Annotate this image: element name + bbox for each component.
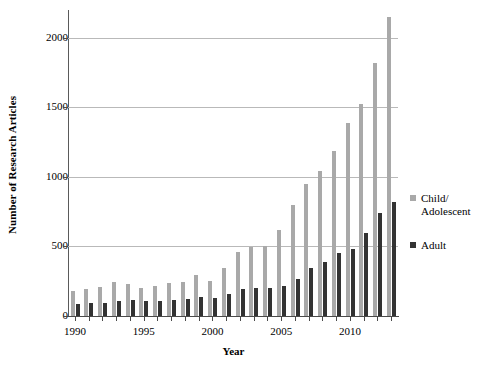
bar-adult — [131, 300, 135, 316]
x-tick-mark — [75, 317, 76, 321]
x-tick-mark — [350, 317, 351, 321]
legend: Child/AdolescentAdult — [410, 192, 485, 274]
bar-group — [180, 10, 194, 316]
bar-group — [125, 10, 139, 316]
bar-group — [262, 10, 276, 316]
bar-adult — [282, 286, 286, 316]
bar-group — [331, 10, 345, 316]
bar-child-adolescent — [126, 284, 130, 316]
bar-child-adolescent — [167, 283, 171, 316]
bar-group — [221, 10, 235, 316]
bar-adult — [117, 301, 121, 316]
x-tick-mark — [157, 317, 158, 321]
bar-child-adolescent — [359, 104, 363, 316]
x-tick-mark — [89, 317, 90, 321]
y-axis-ticks: 0500100015002000 — [0, 0, 68, 330]
y-tick-label: 2000 — [22, 32, 68, 43]
x-tick-label: 2010 — [330, 325, 370, 337]
legend-label-continued: Adolescent — [421, 205, 485, 218]
bar-adult — [337, 253, 341, 316]
legend-swatch — [410, 242, 416, 248]
legend-entry: Child/Adolescent — [410, 192, 485, 217]
bar-child-adolescent — [291, 205, 295, 316]
bar-adult — [268, 288, 272, 317]
y-tick-label: 1500 — [22, 101, 68, 112]
x-tick-label: 1990 — [55, 325, 95, 337]
x-axis-title: Year — [68, 345, 399, 357]
x-tick-mark — [116, 317, 117, 321]
x-tick-label: 2000 — [192, 325, 232, 337]
bar-adult — [392, 202, 396, 316]
bar-group — [317, 10, 331, 316]
bar-child-adolescent — [139, 288, 143, 317]
bar-adult — [172, 300, 176, 316]
x-tick-mark — [281, 317, 282, 321]
bar-child-adolescent — [222, 268, 226, 316]
bar-child-adolescent — [98, 287, 102, 316]
bar-child-adolescent — [181, 282, 185, 316]
x-tick-mark — [144, 317, 145, 321]
bar-child-adolescent — [304, 184, 308, 316]
bar-child-adolescent — [71, 291, 75, 316]
bar-adult — [144, 301, 148, 316]
bar-child-adolescent — [84, 289, 88, 316]
bar-child-adolescent — [112, 282, 116, 316]
bar-group — [70, 10, 84, 316]
bar-child-adolescent — [373, 63, 377, 316]
bar-chart: Number of Research Articles 050010001500… — [0, 0, 485, 369]
bar-group — [290, 10, 304, 316]
x-tick-mark — [377, 317, 378, 321]
bar-group — [248, 10, 262, 316]
plot-area — [68, 10, 398, 316]
x-tick-mark — [295, 317, 296, 321]
bar-adult — [378, 213, 382, 316]
bar-group — [386, 10, 400, 316]
x-tick-mark — [226, 317, 227, 321]
bar-adult — [213, 298, 217, 316]
legend-label: Adult — [421, 239, 485, 252]
bar-group — [193, 10, 207, 316]
x-tick-label: 1995 — [124, 325, 164, 337]
x-tick-mark — [309, 317, 310, 321]
bar-adult — [103, 303, 107, 316]
x-tick-mark — [254, 317, 255, 321]
x-axis-ticks — [68, 317, 399, 323]
bar-child-adolescent — [236, 252, 240, 316]
bar-adult — [296, 279, 300, 316]
bar-child-adolescent — [153, 286, 157, 316]
x-tick-mark — [102, 317, 103, 321]
bar-child-adolescent — [332, 151, 336, 316]
x-tick-mark — [130, 317, 131, 321]
bar-child-adolescent — [387, 17, 391, 316]
bar-child-adolescent — [249, 247, 253, 316]
x-tick-mark — [212, 317, 213, 321]
bar-group — [345, 10, 359, 316]
bar-adult — [241, 289, 245, 316]
bar-child-adolescent — [263, 246, 267, 316]
bar-group — [207, 10, 221, 316]
bar-adult — [227, 294, 231, 316]
bar-child-adolescent — [277, 230, 281, 316]
bar-adult — [89, 303, 93, 316]
y-tick-label: 1000 — [22, 171, 68, 182]
x-tick-mark — [322, 317, 323, 321]
x-tick-mark — [267, 317, 268, 321]
x-tick-mark — [240, 317, 241, 321]
x-tick-mark — [185, 317, 186, 321]
bar-group — [83, 10, 97, 316]
bar-adult — [186, 299, 190, 316]
bar-child-adolescent — [318, 171, 322, 316]
bar-adult — [309, 268, 313, 316]
bar-group — [97, 10, 111, 316]
bar-adult — [323, 262, 327, 316]
x-tick-mark — [336, 317, 337, 321]
x-tick-mark — [171, 317, 172, 321]
bar-adult — [76, 304, 80, 316]
bar-group — [138, 10, 152, 316]
bar-group — [372, 10, 386, 316]
legend-swatch — [410, 195, 416, 201]
bar-group — [111, 10, 125, 316]
bar-group — [276, 10, 290, 316]
bar-adult — [199, 297, 203, 316]
x-tick-label: 2005 — [261, 325, 301, 337]
